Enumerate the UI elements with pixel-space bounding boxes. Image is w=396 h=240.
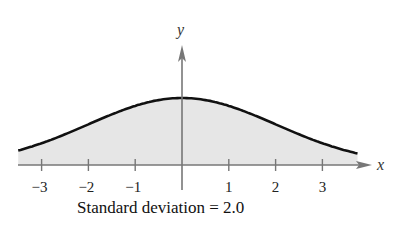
x-tick-label: 2 bbox=[272, 179, 280, 195]
x-axis-label: x bbox=[376, 156, 384, 173]
x-tick-label: 1 bbox=[225, 179, 233, 195]
x-tick-label: −1 bbox=[125, 179, 141, 195]
standard-deviation-label: Standard deviation = 2.0 bbox=[77, 198, 244, 218]
x-tick-label: −2 bbox=[78, 179, 94, 195]
y-axis-label: y bbox=[175, 21, 185, 39]
x-tick-label: 3 bbox=[319, 179, 327, 195]
x-tick-label: −3 bbox=[32, 179, 48, 195]
